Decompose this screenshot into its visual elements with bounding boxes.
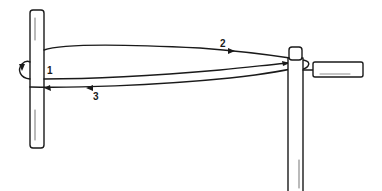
left-post (30, 10, 44, 148)
wire-tension-diagram (0, 0, 382, 191)
wire-loop (20, 45, 309, 87)
arrow-icon (86, 85, 93, 91)
arrow-icon (44, 85, 51, 91)
right-post (288, 47, 303, 191)
arrow-icon (228, 48, 235, 54)
tension-handle (303, 62, 363, 77)
label-2: 2 (220, 39, 226, 49)
label-3: 3 (93, 92, 99, 102)
label-1: 1 (47, 66, 53, 76)
